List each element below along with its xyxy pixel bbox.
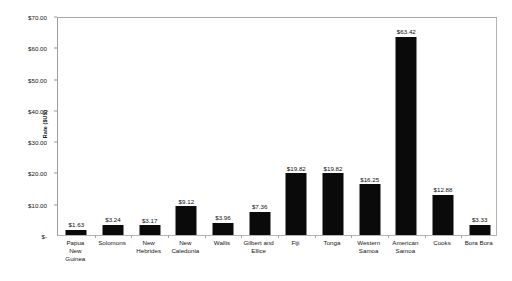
bar-group: $19.82 [278,18,315,235]
bar-value-label: $19.82 [324,165,343,172]
bar-value-label: $3.24 [105,216,120,223]
y-axis-tick-mark [54,110,57,111]
x-axis-category-label-line: American [387,239,424,247]
bar [212,223,233,235]
x-axis-category-label-line: Gilbert and [240,239,277,247]
bar [469,225,490,235]
bar-group: $16.25 [351,18,388,235]
bar-value-label: $12.88 [434,186,453,193]
x-axis-category-label: NewCaledonia [167,239,204,255]
bar-group: $1.63 [58,18,95,235]
y-axis-tick-label: $60.00 [28,45,47,52]
x-axis-category-label: AmericanSamoa [387,239,424,255]
x-axis-tick-mark [278,235,279,238]
bar [286,173,307,235]
bar-group: $63.42 [388,18,425,235]
bar-value-label: $9.12 [179,198,194,205]
y-axis-tick-mark [54,204,57,205]
bar [322,173,343,235]
x-axis-category-label-line: Bora Bora [460,239,497,247]
bar [396,37,417,235]
bar-value-label: $1.63 [69,221,84,228]
bar [176,206,197,235]
y-axis-tick-label: $40.00 [28,107,47,114]
bar-group: $3.24 [95,18,132,235]
x-axis-category-label: Cooks [424,239,461,247]
bar-value-label: $3.96 [215,214,230,221]
x-axis-category-label-line: Solomons [94,239,131,247]
x-axis-category-label-line: Tonga [314,239,351,247]
bar-group: $12.88 [425,18,462,235]
x-axis-category-label-line: Guinea [57,255,94,263]
x-axis-category-label-line: New [57,247,94,255]
x-axis-tick-mark [351,235,352,238]
x-axis-category-label: Solomons [94,239,131,247]
x-axis-category-label-line: Hebrides [130,247,167,255]
x-axis-category-label-line: Caledonia [167,247,204,255]
x-axis-category-label-line: Samoa [387,247,424,255]
x-axis-category-label-line: Samoa [350,247,387,255]
bar-group: $3.17 [131,18,168,235]
y-axis-tick-mark [54,173,57,174]
bar-group: $7.36 [241,18,278,235]
bar-value-label: $19.82 [287,165,306,172]
y-axis-tick-label: $20.00 [28,170,47,177]
x-axis-category-label: Gilbert andEllice [240,239,277,255]
bar-group: $3.96 [205,18,242,235]
x-axis-category-label: Tonga [314,239,351,247]
x-axis-category-label-line: Cooks [424,239,461,247]
x-axis-category-label: Fiji [277,239,314,247]
bar [432,195,453,235]
bar-value-label: $3.33 [472,216,487,223]
x-axis-category-label-line: New [167,239,204,247]
y-axis-tick-label: $70.00 [28,14,47,21]
x-axis-category-label-line: New [130,239,167,247]
x-axis-category-label-line: Western [350,239,387,247]
bar-chart: Rate ($US) $-$10.00$20.00$30.00$40.00$50… [0,0,512,281]
x-axis-tick-mark [168,235,169,238]
y-axis-tick-labels: $-$10.00$20.00$30.00$40.00$50.00$60.00$7… [0,17,53,236]
x-axis-tick-mark [95,235,96,238]
x-axis-category-label: NewHebrides [130,239,167,255]
y-axis-tick-label: $10.00 [28,201,47,208]
bar-value-label: $63.42 [397,28,416,35]
x-axis-category-label: PapuaNewGuinea [57,239,94,264]
bar [66,230,87,235]
x-axis-tick-mark [241,235,242,238]
bar [359,184,380,235]
x-axis-category-label-line: Wallis [204,239,241,247]
bar-value-label: $16.25 [360,176,379,183]
y-axis-tick-mark [54,142,57,143]
x-axis-tick-mark [315,235,316,238]
x-axis-category-label: Wallis [204,239,241,247]
x-axis-category-label: WesternSamoa [350,239,387,255]
bars-layer: $1.63$3.24$3.17$9.12$3.96$7.36$19.82$19.… [58,18,496,235]
x-axis-category-labels: PapuaNewGuineaSolomonsNewHebridesNewCale… [57,239,497,281]
x-axis-tick-mark [131,235,132,238]
bar-group: $3.33 [461,18,498,235]
x-axis-category-label-line: Ellice [240,247,277,255]
y-axis-tick-mark [54,79,57,80]
bar-group: $19.82 [315,18,352,235]
y-axis-tick-label: $- [41,233,47,240]
y-axis-tick-label: $30.00 [28,139,47,146]
bar-value-label: $3.17 [142,217,157,224]
y-axis-tick-mark [54,17,57,18]
y-axis-tick-mark [54,48,57,49]
x-axis-category-label-line: Fiji [277,239,314,247]
x-axis-tick-mark [461,235,462,238]
bar-value-label: $7.36 [252,203,267,210]
x-axis-category-label: Bora Bora [460,239,497,247]
bar-group: $9.12 [168,18,205,235]
x-axis-tick-mark [388,235,389,238]
bar [139,225,160,235]
bar [249,212,270,235]
x-axis-category-label-line: Papua [57,239,94,247]
plot-area: $1.63$3.24$3.17$9.12$3.96$7.36$19.82$19.… [57,17,497,236]
x-axis-tick-mark [425,235,426,238]
bar [102,225,123,235]
y-axis-tick-label: $50.00 [28,76,47,83]
x-axis-tick-mark [205,235,206,238]
